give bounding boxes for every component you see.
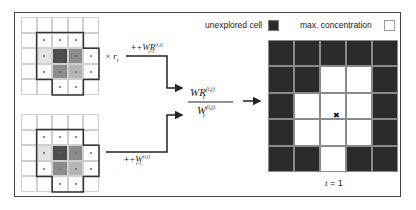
- unexplored-cell: [346, 146, 372, 172]
- explored-cell: [294, 93, 320, 119]
- time-step-caption: t = 1: [325, 178, 343, 188]
- explored-cell: [320, 146, 346, 172]
- unexplored-cell: [294, 66, 320, 92]
- unexplored-cell: [372, 93, 398, 119]
- fraction-numerator: WR(i,j)t: [190, 86, 204, 100]
- unexplored-cell: [268, 93, 294, 119]
- unexplored-cell: [294, 40, 320, 66]
- explored-cell: [346, 66, 372, 92]
- unexplored-cell: [372, 146, 398, 172]
- legend-unexplored-label: unexplored cell: [205, 20, 262, 30]
- unexplored-cell: [372, 119, 398, 145]
- unexplored-cell: [268, 66, 294, 92]
- legend-unexplored-swatch: [268, 20, 279, 31]
- add-weighted-reading-label: ++WR(i,j)t-1: [131, 42, 154, 54]
- fraction-denominator: W(i,j)t: [197, 104, 205, 118]
- legend-max-label: max. concentration: [300, 20, 372, 30]
- unexplored-cell: [268, 146, 294, 172]
- explored-cell: [294, 119, 320, 145]
- legend-max-swatch: [384, 20, 395, 31]
- unexplored-cell: [320, 40, 346, 66]
- explored-cell: [320, 119, 346, 145]
- concentration-map-grid: [268, 40, 398, 172]
- unexplored-cell: [346, 40, 372, 66]
- unexplored-cell: [372, 40, 398, 66]
- explored-cell: [346, 119, 372, 145]
- explored-cell: [320, 66, 346, 92]
- explored-cell: [346, 93, 372, 119]
- unexplored-cell: [268, 119, 294, 145]
- source-estimate-marker: ✖: [333, 111, 340, 120]
- unexplored-cell: [268, 40, 294, 66]
- unexplored-cell: [294, 146, 320, 172]
- unexplored-cell: [372, 66, 398, 92]
- add-weight-label: ++W(i,j)t-1: [124, 154, 142, 166]
